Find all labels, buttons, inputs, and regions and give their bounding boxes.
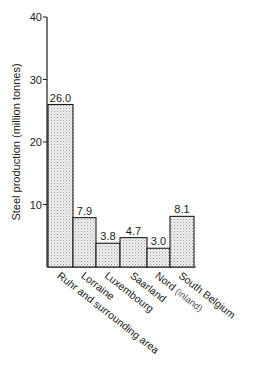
y-tick-label: 40	[30, 11, 42, 23]
bar-value-label: 8.1	[174, 203, 189, 215]
bar-value-label: 3.0	[151, 235, 166, 247]
bar	[96, 243, 120, 267]
y-axis-title: Steel production (million tonnes)	[10, 63, 22, 220]
bar-value-label: 7.9	[77, 205, 92, 217]
y-tick-label: 10	[30, 199, 42, 211]
y-tick-label: 20	[30, 136, 42, 148]
bar-value-label: 26.0	[50, 92, 71, 104]
y-tick-label: 30	[30, 74, 42, 86]
bar	[120, 238, 147, 267]
bars	[48, 105, 194, 268]
bar	[170, 216, 194, 267]
steel-production-bar-chart: 10203040 26.07.93.84.73.08.1 Ruhr and su…	[0, 0, 257, 375]
bar	[147, 248, 170, 267]
bar-value-label: 4.7	[126, 225, 141, 237]
bar	[73, 218, 96, 267]
category-labels: Ruhr and surrounding areaLorraineLuxembo…	[55, 269, 238, 356]
bar-value-label: 3.8	[100, 230, 115, 242]
bar	[48, 105, 73, 268]
